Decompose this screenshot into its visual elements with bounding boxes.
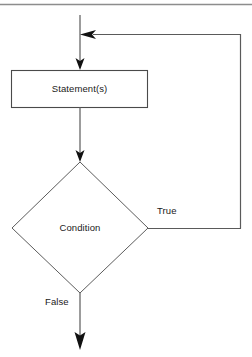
- statement-box-label: Statement(s): [11, 84, 148, 94]
- false-branch-label: False: [45, 297, 69, 307]
- condition-diamond-label: Condition: [12, 223, 148, 233]
- true-branch-label: True: [157, 206, 177, 216]
- flowchart-svg: [0, 0, 252, 357]
- flowchart-canvas: Statement(s) Condition True False: [0, 0, 252, 357]
